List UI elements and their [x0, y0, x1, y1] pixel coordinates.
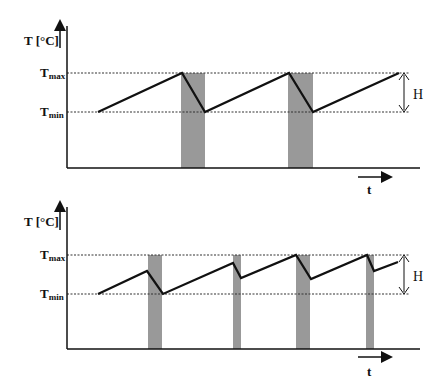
- tmax-label: Tmax: [40, 66, 65, 81]
- h-label: H: [413, 270, 423, 284]
- shaded-period: [288, 73, 313, 168]
- shaded-period: [296, 255, 310, 349]
- temperature-curve: [98, 255, 398, 294]
- diagram-canvas: [0, 0, 442, 391]
- top-panel: [60, 22, 420, 177]
- t-label: t: [367, 365, 371, 378]
- tmin-label: Tmin: [40, 287, 64, 302]
- h-label: H: [413, 88, 423, 102]
- temperature-curve: [98, 73, 399, 112]
- t-label: t: [367, 183, 371, 196]
- bottom-panel: [60, 203, 420, 357]
- y-axis-label: T [°C]: [24, 215, 59, 228]
- shaded-period: [148, 255, 162, 349]
- tmax-label: Tmax: [40, 248, 65, 263]
- tmin-label: Tmin: [40, 105, 64, 120]
- shaded-period: [181, 73, 205, 168]
- y-axis-label: T [°C]: [24, 34, 59, 47]
